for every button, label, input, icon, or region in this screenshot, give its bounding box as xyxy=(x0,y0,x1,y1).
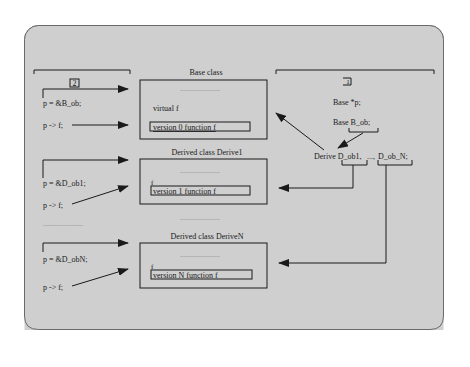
statements-ellipsis: …………………… xyxy=(43,222,83,227)
decl-derived-last: D_ob_N; xyxy=(378,152,408,161)
d-ob1-to-derive1-arrow xyxy=(279,165,353,188)
assign-deriveN: p = &D_obN; xyxy=(43,255,88,264)
derive1-function-label: version 1 function f xyxy=(153,187,216,196)
decl-pointer: Base *p; xyxy=(333,98,361,107)
assign-base: p = &B_ob; xyxy=(43,99,81,108)
decl-base-object: Base B_ob; xyxy=(333,118,370,127)
base-class-dots: …………………… xyxy=(180,87,220,92)
base-ob-underbracket xyxy=(349,128,378,132)
assign-derive1: p = &D_ob1; xyxy=(43,179,86,188)
d-ob-n-to-deriveN-arrow xyxy=(279,165,386,263)
assign-line-base xyxy=(43,89,128,98)
deriveN-function-label: version N function f xyxy=(153,271,218,280)
decl-derived-prefix: Derive D_ob1, xyxy=(314,152,362,161)
derive1-class-box xyxy=(140,159,267,204)
base-class-title: Base class xyxy=(189,68,222,77)
call-derive1: p -> f; xyxy=(43,201,63,210)
base-function-label: version 0 function f xyxy=(153,123,216,132)
call-line-derive1 xyxy=(72,186,128,204)
left-bracket xyxy=(34,70,130,74)
right-label: 1 xyxy=(346,78,350,86)
classes-ellipsis: …………………… xyxy=(180,216,220,221)
content-layer: 2 1 Base class Derived class Derive1 Der… xyxy=(0,0,470,367)
right-bracket xyxy=(276,70,434,74)
base-class-member: virtual f xyxy=(153,104,179,113)
decl-derived-sep: ..., xyxy=(367,152,375,161)
base-ob-to-derive-arrow xyxy=(338,133,363,148)
left-label: 2 xyxy=(73,79,77,88)
deriveN-class-title: Derived class DeriveN xyxy=(171,232,244,241)
call-line-deriveN xyxy=(72,269,128,286)
derive1-class-dots: …………………… xyxy=(180,169,220,174)
derive-to-base-arrow xyxy=(276,113,324,150)
derive1-class-title: Derived class Derive1 xyxy=(171,148,242,157)
deriveN-class-dots: …………………… xyxy=(180,253,220,258)
call-deriveN: p -> f; xyxy=(43,283,63,292)
deriveN-class-box xyxy=(140,243,267,288)
call-base: p -> f; xyxy=(43,121,63,130)
assign-line-derive1 xyxy=(43,160,128,178)
assign-line-deriveN xyxy=(43,243,128,252)
